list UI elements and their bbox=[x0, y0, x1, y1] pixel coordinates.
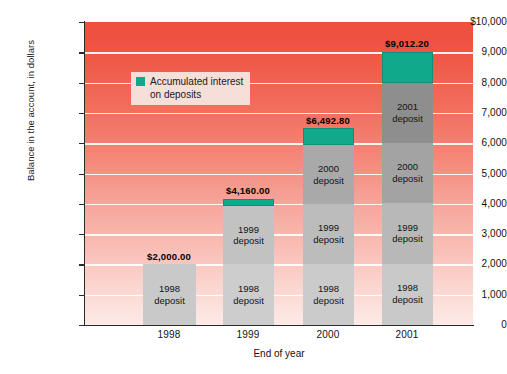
legend-label: Accumulated interest on deposits bbox=[150, 75, 243, 101]
segment-label: 2000 deposit bbox=[303, 163, 354, 187]
y-tick-label-5000: 5,000 bbox=[429, 168, 507, 179]
bar-2001-segment-accumulated-interest bbox=[382, 52, 433, 83]
bar-2001-segment-1999-deposit: 1999 deposit bbox=[382, 203, 433, 264]
segment-label: 1999 deposit bbox=[382, 222, 433, 246]
bar-1998-total-label: $2,000.00 bbox=[99, 251, 239, 262]
bar-1998-segment-1998-deposit: 1998 deposit bbox=[143, 264, 196, 325]
segment-label: 1999 deposit bbox=[303, 222, 354, 246]
segment-label: 2000 deposit bbox=[382, 161, 433, 185]
bar-2000-segment-1999-deposit: 1999 deposit bbox=[303, 204, 354, 264]
segment-label: 2001 deposit bbox=[382, 101, 433, 125]
y-tick-mark-1000 bbox=[79, 295, 84, 296]
y-tick-mark-4000 bbox=[79, 204, 84, 205]
y-tick-mark-5000 bbox=[79, 174, 84, 175]
segment-label: 1998 deposit bbox=[382, 282, 433, 306]
bar-2000[interactable]: 2000 deposit 1999 deposit 1998 deposit bbox=[303, 128, 354, 325]
segment-label: 1999 deposit bbox=[223, 224, 274, 248]
y-tick-label-10000: $10,000 bbox=[429, 16, 507, 27]
y-tick-label-8000: 8,000 bbox=[429, 77, 507, 88]
plot-area: 1998 deposit $2,000.00 1999 deposit 1998… bbox=[85, 22, 473, 325]
y-tick-label-2000: 2,000 bbox=[429, 258, 507, 269]
bar-2000-segment-1998-deposit: 1998 deposit bbox=[303, 264, 354, 325]
bar-2000-segment-accumulated-interest bbox=[303, 128, 354, 145]
bar-2001-segment-2001-deposit: 2001 deposit bbox=[382, 83, 433, 143]
y-axis-line bbox=[84, 21, 85, 326]
y-tick-mark-8000 bbox=[79, 83, 84, 84]
y-tick-label-9000: 9,000 bbox=[429, 46, 507, 57]
y-tick-label-7000: 7,000 bbox=[429, 107, 507, 118]
segment-label: 1998 deposit bbox=[303, 283, 354, 307]
legend-swatch-interest-icon bbox=[136, 77, 145, 86]
y-tick-mark-2000 bbox=[79, 264, 84, 265]
y-tick-label-3000: 3,000 bbox=[429, 228, 507, 239]
segment-label: 1998 deposit bbox=[143, 283, 196, 307]
bar-1999[interactable]: 1999 deposit 1998 deposit bbox=[223, 199, 274, 325]
y-tick-mark-3000 bbox=[79, 234, 84, 235]
y-tick-mark-10000 bbox=[79, 22, 84, 23]
y-tick-mark-6000 bbox=[79, 143, 84, 144]
y-tick-label-1000: 1,000 bbox=[429, 289, 507, 300]
bar-1999-segment-1998-deposit: 1998 deposit bbox=[223, 264, 274, 325]
bar-1999-total-label: $4,160.00 bbox=[178, 185, 318, 196]
bar-2000-segment-2000-deposit: 2000 deposit bbox=[303, 145, 354, 205]
bar-2001[interactable]: 2001 deposit 2000 deposit 1999 deposit 1… bbox=[382, 52, 433, 325]
y-tick-mark-9000 bbox=[79, 52, 84, 53]
x-tick-label-1999: 1999 bbox=[203, 329, 293, 340]
bar-2001-segment-2000-deposit: 2000 deposit bbox=[382, 143, 433, 203]
bar-1999-segment-accumulated-interest bbox=[223, 199, 274, 207]
x-tick-label-2001: 2001 bbox=[362, 329, 452, 340]
bar-2001-segment-1998-deposit: 1998 deposit bbox=[382, 264, 433, 325]
x-tick-label-1998: 1998 bbox=[124, 329, 214, 340]
x-axis-line bbox=[84, 325, 474, 326]
x-axis-title: End of year bbox=[85, 348, 473, 359]
y-tick-mark-7000 bbox=[79, 113, 84, 114]
segment-label: 1998 deposit bbox=[223, 283, 274, 307]
y-tick-label-6000: 6,000 bbox=[429, 137, 507, 148]
bar-1999-segment-1999-deposit: 1999 deposit bbox=[223, 206, 274, 264]
y-axis-title: Balance in the account, in dollars bbox=[25, 11, 36, 211]
bar-2000-total-label: $6,492.80 bbox=[258, 115, 398, 126]
x-tick-label-2000: 2000 bbox=[283, 329, 373, 340]
legend: Accumulated interest on deposits bbox=[131, 72, 250, 105]
bar-1998[interactable]: 1998 deposit bbox=[143, 264, 196, 325]
bar-chart: Balance in the account, in dollars 1998 … bbox=[0, 0, 507, 374]
y-tick-label-4000: 4,000 bbox=[429, 198, 507, 209]
y-tick-mark-0 bbox=[79, 325, 84, 326]
